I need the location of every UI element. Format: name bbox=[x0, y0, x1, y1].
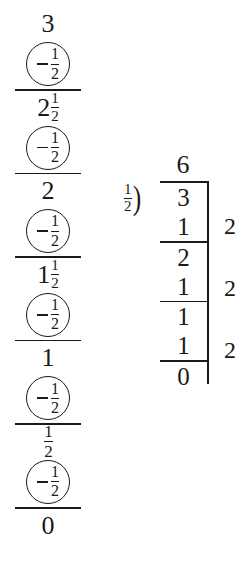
one-half-fraction: 1 2 bbox=[51, 381, 59, 417]
work-digit: 2 bbox=[160, 243, 207, 272]
work-digit: 1 bbox=[160, 331, 207, 360]
circled-minus-half-icon: 1 2 bbox=[26, 376, 70, 420]
fraction-numerator: 1 bbox=[51, 258, 59, 273]
result-fraction: 1 2 bbox=[51, 258, 59, 291]
work-digit: 1 bbox=[160, 302, 207, 331]
division-work-stack: 3 1 2 1 1 1 0 bbox=[160, 183, 207, 391]
subtract-half-operator: 1 2 bbox=[8, 458, 88, 506]
subtract-half-operator: 1 2 bbox=[8, 124, 88, 172]
minus-sign-icon bbox=[37, 230, 48, 232]
subtract-half-operator: 1 2 bbox=[8, 374, 88, 422]
count-item: 2 bbox=[217, 214, 243, 238]
subtraction-rule bbox=[15, 89, 81, 91]
fraction-numerator: 1 bbox=[51, 46, 59, 62]
division-bracket-icon: ) bbox=[132, 184, 141, 212]
subtraction-result: 2 bbox=[8, 175, 88, 207]
start-value-whole: 3 bbox=[42, 11, 55, 37]
count-item: 2 bbox=[217, 276, 243, 300]
circled-minus-half-icon: 1 2 bbox=[26, 42, 70, 86]
work-digit: 1 bbox=[160, 212, 207, 241]
division-divisor: 1 2 ) bbox=[124, 182, 142, 215]
divisor-fraction: 1 2 bbox=[124, 182, 132, 215]
subtraction-step: 1 2 2 bbox=[8, 124, 88, 208]
minus-sign-icon bbox=[37, 481, 48, 483]
division-vertical-divider bbox=[207, 181, 209, 384]
fraction-numerator: 1 bbox=[51, 381, 59, 397]
minus-sign-icon bbox=[37, 63, 48, 65]
circled-minus-half-icon: 1 2 bbox=[26, 126, 70, 170]
fraction-denominator: 2 bbox=[51, 316, 59, 332]
result-whole: 0 bbox=[42, 513, 55, 539]
fraction-denominator: 2 bbox=[51, 109, 59, 124]
repeated-subtraction-column: 3 1 2 2 1 2 bbox=[8, 8, 88, 542]
minus-sign-icon bbox=[37, 147, 48, 149]
one-half-fraction: 1 2 bbox=[51, 46, 59, 82]
fraction-numerator: 1 bbox=[51, 464, 59, 480]
division-count-column: 2 2 2 bbox=[217, 181, 243, 384]
subtraction-start-value: 3 bbox=[8, 8, 88, 40]
fraction-numerator: 1 bbox=[51, 213, 59, 229]
fraction-denominator: 2 bbox=[124, 199, 132, 214]
subtraction-rule bbox=[15, 256, 81, 258]
subtraction-step: 1 2 1 1 2 bbox=[8, 207, 88, 291]
fraction-numerator: 1 bbox=[51, 297, 59, 313]
work-digit: 3 bbox=[160, 183, 207, 212]
subtraction-result: 0 bbox=[8, 510, 88, 542]
subtraction-step: 1 2 1 bbox=[8, 291, 88, 375]
result-whole: 2 bbox=[42, 178, 55, 204]
subtraction-step: 1 2 1 2 bbox=[8, 374, 88, 458]
subtraction-result: 1 2 bbox=[8, 426, 88, 458]
subtraction-rule bbox=[15, 507, 81, 509]
one-half-fraction: 1 2 bbox=[51, 464, 59, 500]
minus-sign-icon bbox=[37, 314, 48, 316]
subtraction-rule bbox=[15, 173, 81, 175]
fraction-denominator: 2 bbox=[51, 483, 59, 499]
fraction-numerator: 1 bbox=[124, 182, 132, 197]
subtraction-rule bbox=[15, 340, 81, 342]
fraction-denominator: 2 bbox=[51, 233, 59, 249]
subtraction-result: 1 1 2 bbox=[8, 259, 88, 291]
subtraction-result: 1 bbox=[8, 342, 88, 374]
subtract-half-operator: 1 2 bbox=[8, 207, 88, 255]
work-digit: 1 bbox=[160, 272, 207, 301]
result-fraction: 1 2 bbox=[44, 423, 53, 461]
subtraction-step: 1 2 0 bbox=[8, 458, 88, 542]
circled-minus-half-icon: 1 2 bbox=[26, 293, 70, 337]
count-item: 2 bbox=[217, 338, 243, 362]
fraction-denominator: 2 bbox=[51, 66, 59, 82]
fraction-numerator: 1 bbox=[44, 423, 53, 440]
circled-minus-half-icon: 1 2 bbox=[26, 460, 70, 504]
subtract-half-operator: 1 2 bbox=[8, 40, 88, 88]
fraction-denominator: 2 bbox=[51, 276, 59, 291]
subtract-half-operator: 1 2 bbox=[8, 291, 88, 339]
fraction-numerator: 1 bbox=[51, 91, 59, 106]
long-division-figure: 6 1 2 ) 3 1 2 1 1 1 0 2 2 2 bbox=[122, 152, 243, 384]
minus-sign-icon bbox=[37, 397, 48, 399]
circled-minus-half-icon: 1 2 bbox=[26, 209, 70, 253]
result-whole: 1 bbox=[37, 262, 50, 288]
result-whole: 1 bbox=[42, 345, 55, 371]
fraction-denominator: 2 bbox=[51, 400, 59, 416]
one-half-fraction: 1 2 bbox=[51, 213, 59, 249]
work-digit: 0 bbox=[160, 362, 207, 391]
subtraction-step: 1 2 2 1 2 bbox=[8, 40, 88, 124]
result-fraction: 1 2 bbox=[51, 91, 59, 124]
fraction-denominator: 2 bbox=[51, 149, 59, 165]
one-half-fraction: 1 2 bbox=[51, 130, 59, 166]
result-whole: 2 bbox=[37, 95, 50, 121]
subtraction-result: 2 1 2 bbox=[8, 92, 88, 124]
one-half-fraction: 1 2 bbox=[51, 297, 59, 333]
division-quotient: 6 bbox=[164, 152, 202, 178]
fraction-numerator: 1 bbox=[51, 130, 59, 146]
